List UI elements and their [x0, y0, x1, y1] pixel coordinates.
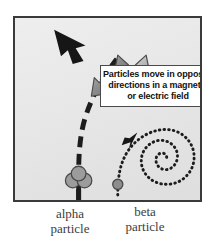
beta-label-line-2: particle	[110, 219, 180, 234]
beta-label-line-1: beta	[110, 204, 180, 219]
particle-deflection-figure: Particles move in opposite directions in…	[0, 0, 215, 246]
beta-particle	[113, 179, 123, 189]
alpha-arrowhead-icon	[54, 30, 85, 64]
alpha-particle	[65, 166, 91, 188]
callout-line-3: or electric field	[103, 91, 202, 102]
callout-line-2: directions in a magnetic	[103, 80, 202, 91]
alpha-label-line-1: alpha	[32, 206, 108, 221]
alpha-label-line-2: particle	[32, 221, 108, 236]
diagram-canvas	[15, 18, 200, 200]
callout-box: Particles move in opposite directions in…	[100, 65, 202, 107]
callout-line-1: Particles move in opposite	[103, 69, 202, 80]
diagram-frame: Particles move in opposite directions in…	[13, 16, 202, 202]
alpha-particle-label: alpha particle	[32, 206, 108, 236]
beta-particle-label: beta particle	[110, 204, 180, 234]
